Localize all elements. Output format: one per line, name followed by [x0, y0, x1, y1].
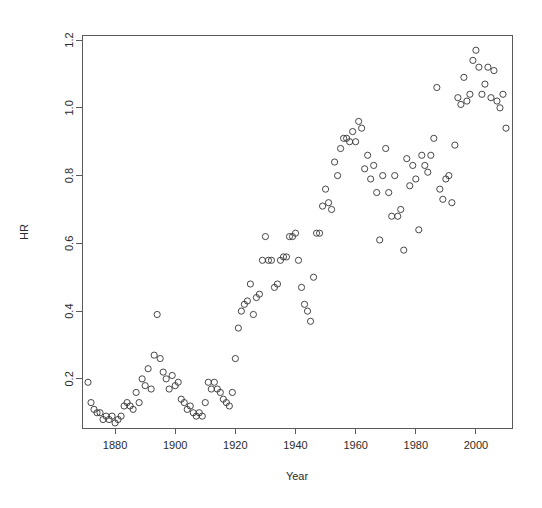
- data-point: [359, 125, 365, 131]
- data-point: [395, 213, 401, 219]
- data-point: [307, 318, 313, 324]
- chart-figure: 1880190019201940196019802000 0.20.40.60.…: [0, 0, 542, 508]
- data-point: [413, 176, 419, 182]
- data-point: [136, 399, 142, 405]
- data-points: [85, 47, 509, 426]
- data-point: [148, 386, 154, 392]
- data-point: [425, 169, 431, 175]
- data-point: [365, 152, 371, 158]
- data-point: [476, 64, 482, 70]
- data-point: [374, 189, 380, 195]
- data-point: [419, 152, 425, 158]
- data-point: [262, 233, 268, 239]
- data-point: [383, 145, 389, 151]
- data-point: [401, 247, 407, 253]
- data-point: [479, 91, 485, 97]
- data-point: [142, 383, 148, 389]
- y-axis-tick-labels: 0.20.40.60.81.01.2: [63, 32, 75, 386]
- data-point: [259, 257, 265, 263]
- data-point: [301, 301, 307, 307]
- data-point: [461, 74, 467, 80]
- data-point: [298, 284, 304, 290]
- data-point: [470, 57, 476, 63]
- y-tick-label: 1.0: [63, 100, 75, 115]
- data-point: [485, 64, 491, 70]
- data-point: [235, 325, 241, 331]
- data-point: [422, 162, 428, 168]
- data-point: [145, 366, 151, 372]
- data-point: [238, 308, 244, 314]
- data-point: [455, 95, 461, 101]
- x-tick-label: 1880: [103, 439, 127, 451]
- data-point: [389, 213, 395, 219]
- data-point: [169, 372, 175, 378]
- data-point: [377, 237, 383, 243]
- data-point: [404, 156, 410, 162]
- plot-frame: [82, 35, 512, 428]
- data-point: [488, 95, 494, 101]
- data-point: [386, 189, 392, 195]
- data-point: [458, 101, 464, 107]
- data-point: [133, 389, 139, 395]
- data-point: [202, 399, 208, 405]
- x-tick-label: 1940: [283, 439, 307, 451]
- y-tick-label: 0.2: [63, 371, 75, 386]
- data-point: [160, 369, 166, 375]
- data-point: [362, 166, 368, 172]
- data-point: [208, 386, 214, 392]
- x-tick-label: 1900: [163, 439, 187, 451]
- data-point: [398, 206, 404, 212]
- data-point: [416, 227, 422, 233]
- data-point: [250, 311, 256, 317]
- data-point: [331, 159, 337, 165]
- data-point: [428, 152, 434, 158]
- data-point: [325, 200, 331, 206]
- data-point: [353, 139, 359, 145]
- data-point: [350, 128, 356, 134]
- data-point: [464, 98, 470, 104]
- data-point: [371, 162, 377, 168]
- data-point: [503, 125, 509, 131]
- data-point: [356, 118, 362, 124]
- data-point: [88, 399, 94, 405]
- data-point: [392, 173, 398, 179]
- scatter-plot: 1880190019201940196019802000 0.20.40.60.…: [0, 0, 542, 508]
- data-point: [380, 173, 386, 179]
- data-point: [157, 355, 163, 361]
- data-point: [452, 142, 458, 148]
- data-point: [410, 162, 416, 168]
- data-point: [368, 176, 374, 182]
- y-tick-label: 0.8: [63, 168, 75, 183]
- data-point: [85, 379, 91, 385]
- data-point: [319, 203, 325, 209]
- data-point: [482, 81, 488, 87]
- data-point: [211, 379, 217, 385]
- data-point: [310, 274, 316, 280]
- data-point: [440, 196, 446, 202]
- data-point: [437, 186, 443, 192]
- data-point: [449, 200, 455, 206]
- data-point: [328, 206, 334, 212]
- x-tick-label: 1960: [343, 439, 367, 451]
- data-point: [500, 91, 506, 97]
- y-axis-title: HR: [18, 224, 30, 240]
- y-axis-ticks: [76, 40, 82, 379]
- data-point: [473, 47, 479, 53]
- data-point: [407, 183, 413, 189]
- y-tick-label: 1.2: [63, 32, 75, 47]
- data-point: [497, 105, 503, 111]
- data-point: [205, 379, 211, 385]
- y-tick-label: 0.4: [63, 303, 75, 318]
- x-axis-ticks: [115, 428, 476, 434]
- x-axis-tick-labels: 1880190019201940196019802000: [103, 439, 488, 451]
- data-point: [163, 376, 169, 382]
- data-point: [232, 355, 238, 361]
- data-point: [139, 376, 145, 382]
- data-point: [151, 352, 157, 358]
- x-tick-label: 1920: [223, 439, 247, 451]
- data-point: [229, 389, 235, 395]
- data-point: [154, 311, 160, 317]
- x-tick-label: 1980: [404, 439, 428, 451]
- x-axis-title: Year: [286, 470, 309, 482]
- data-point: [338, 145, 344, 151]
